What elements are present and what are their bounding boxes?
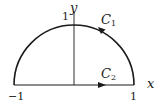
y-tick-label-1: 1 [62,11,69,22]
c2-arrow-icon [98,82,106,88]
contour-diagram: y 1 x −1 1 C1 C2 [0,0,158,104]
curve-label-c2: C2 [101,67,116,82]
curve-c1-subscript: 1 [111,19,116,28]
curve-label-c1: C1 [101,13,116,28]
y-axis-label: y [70,1,77,14]
curve-c2-name: C [101,66,111,81]
x-tick-label-neg1: −1 [8,91,24,102]
diagram-canvas [0,0,158,104]
x-tick-label-1: 1 [130,91,137,102]
x-axis-label: x [147,77,154,90]
curve-c1-name: C [101,12,111,27]
curve-c2-subscript: 2 [111,73,116,82]
